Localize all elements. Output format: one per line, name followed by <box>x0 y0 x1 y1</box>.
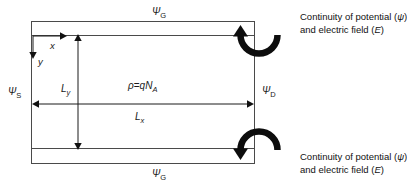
lx-arrowhead-right <box>247 100 254 107</box>
continuity-note-top-line2-pre: and electric field ( <box>300 24 374 35</box>
bottom-continuity-arrowhead <box>233 149 248 161</box>
top-continuity-curved-arrow <box>241 35 278 54</box>
continuity-note-top-line2-post: ) <box>381 24 384 35</box>
ly-subscript: y <box>67 88 71 97</box>
drain-potential-label: ΨD <box>262 85 276 100</box>
gate-potential-label-top: ΨG <box>152 6 166 21</box>
y-axis-label: y <box>38 56 43 67</box>
source-potential-label: ΨS <box>8 86 21 101</box>
source-potential-subscript: S <box>16 91 21 100</box>
continuity-note-bottom-line1: Continuity of potential (ψ) <box>300 151 407 164</box>
lx-subscript: x <box>141 116 145 125</box>
continuity-note-top-line1-pre: Continuity of potential ( <box>300 11 397 22</box>
continuity-note-bottom-line1-pre: Continuity of potential ( <box>300 151 397 162</box>
gate-potential-label-bottom: ΨG <box>152 168 166 183</box>
continuity-note-bottom: Continuity of potential (ψ) and electric… <box>300 151 407 177</box>
top-continuity-arrowhead <box>233 25 248 37</box>
continuity-note-top: Continuity of potential (ψ) and electric… <box>300 11 407 37</box>
lx-dimension-label: Lx <box>135 111 144 126</box>
gate-potential-subscript-top: G <box>160 11 166 20</box>
continuity-note-top-line2: and electric field (E) <box>300 24 407 37</box>
bottom-continuity-curved-arrow <box>241 132 278 151</box>
gate-potential-subscript-bottom: G <box>160 173 166 182</box>
continuity-note-top-line1: Continuity of potential (ψ) <box>300 11 407 24</box>
lx-arrowhead-left <box>32 100 39 107</box>
charge-density-equation: ρ=qNA <box>128 80 157 95</box>
x-axis-arrowhead <box>60 32 67 39</box>
x-axis-label: x <box>50 40 55 51</box>
continuity-note-bottom-line2: and electric field (E) <box>300 164 407 177</box>
continuity-note-bottom-line2-pre: and electric field ( <box>300 164 374 175</box>
y-axis-arrowhead <box>29 52 36 59</box>
continuity-note-bottom-line2-post: ) <box>381 164 384 175</box>
drain-potential-subscript: D <box>270 90 275 99</box>
ly-dimension-label: Ly <box>61 83 70 98</box>
acceptor-density-subscript: A <box>152 85 157 94</box>
